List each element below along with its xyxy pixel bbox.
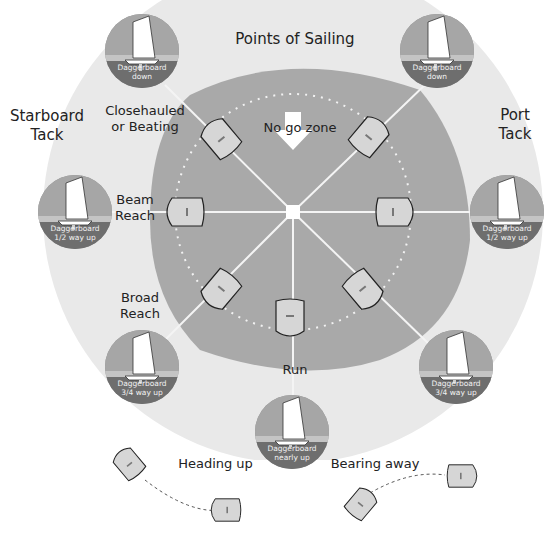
- medallion-top-left: Daggerboarddown: [105, 14, 179, 88]
- medallion-caption-line2: 1/2 way up: [470, 233, 544, 242]
- port-tack-line2: Tack: [485, 125, 545, 144]
- medallion-bottom: Daggerboardnearly up: [255, 395, 329, 469]
- no-go-zone-label: No go zone: [255, 120, 345, 136]
- beam-reach-line1: Beam: [110, 192, 160, 208]
- boat-beam-reach-port: [376, 198, 413, 226]
- medallion-caption-line1: Daggerboard: [400, 63, 474, 72]
- port-tack-line1: Port: [485, 106, 545, 125]
- medallion-caption-line2: nearly up: [255, 453, 329, 462]
- boat-beam-reach-starboard: [167, 198, 204, 226]
- medallion-caption-line1: Daggerboard: [105, 379, 179, 388]
- closehauled-line2: or Beating: [100, 119, 190, 135]
- boat-run: [276, 299, 304, 336]
- broad-reach-line2: Reach: [115, 306, 165, 322]
- medallion-caption-line2: 3/4 way up: [419, 388, 493, 397]
- medallion-caption-line2: 3/4 way up: [105, 388, 179, 397]
- points-of-sailing-diagram: Points of Sailing Starboard Tack Port Ta…: [0, 0, 550, 553]
- starboard-tack-line1: Starboard: [2, 107, 92, 126]
- starboard-tack-label: Starboard Tack: [2, 107, 92, 145]
- diagram-title: Points of Sailing: [220, 31, 370, 47]
- medallion-caption-line1: Daggerboard: [38, 224, 112, 233]
- medallion-low-right: Daggerboard3/4 way up: [419, 330, 493, 404]
- medallion-low-left: Daggerboard3/4 way up: [105, 330, 179, 404]
- medallion-caption-line1: Daggerboard: [255, 444, 329, 453]
- port-tack-label: Port Tack: [485, 106, 545, 144]
- boat-heading-up-end: [211, 499, 241, 521]
- closehauled-label: Closehauled or Beating: [100, 103, 190, 135]
- beam-reach-line2: Reach: [110, 208, 160, 224]
- center-point: [286, 205, 300, 219]
- medallion-mid-right: Daggerboard1/2 way up: [470, 175, 544, 249]
- beam-reach-label: Beam Reach: [110, 192, 160, 224]
- run-label: Run: [280, 362, 310, 378]
- medallion-caption-line2: down: [400, 72, 474, 81]
- medallion-caption-line2: 1/2 way up: [38, 233, 112, 242]
- medallion-caption-line1: Daggerboard: [105, 63, 179, 72]
- broad-reach-label: Broad Reach: [115, 290, 165, 322]
- heading-up-label: Heading up: [178, 456, 253, 472]
- medallion-caption-line2: down: [105, 72, 179, 81]
- closehauled-line1: Closehauled: [100, 103, 190, 119]
- boat-bearing-away-end: [447, 465, 477, 487]
- medallion-caption-line1: Daggerboard: [470, 224, 544, 233]
- broad-reach-line1: Broad: [115, 290, 165, 306]
- medallion-caption-line1: Daggerboard: [419, 379, 493, 388]
- medallion-mid-left: Daggerboard1/2 way up: [38, 175, 112, 249]
- medallion-top-right: Daggerboarddown: [400, 14, 474, 88]
- starboard-tack-line2: Tack: [2, 126, 92, 145]
- bearing-away-label: Bearing away: [330, 456, 420, 472]
